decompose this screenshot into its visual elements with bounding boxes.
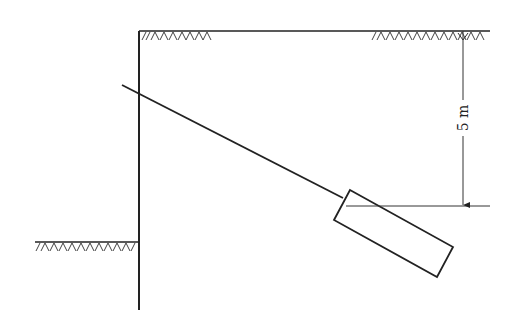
dimension-label: 5 m	[455, 105, 471, 132]
ground-surface-top	[139, 31, 490, 40]
ground-hatch-top-left	[142, 32, 211, 40]
ground-hatch-excavation	[36, 243, 135, 251]
dimension-line: 5 m	[455, 31, 471, 205]
ground-hatch-top-right	[372, 32, 484, 40]
anchor-rod	[122, 85, 343, 198]
anchor-block	[334, 190, 453, 277]
ground-surface-excavation	[35, 242, 139, 251]
diagram-canvas: 5 m	[0, 0, 524, 330]
